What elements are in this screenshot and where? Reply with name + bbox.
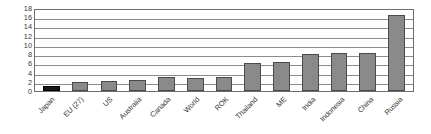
x-label-slot: China (354, 93, 383, 134)
bar-indonesia[interactable] (331, 53, 348, 91)
bar-india[interactable] (302, 54, 319, 91)
y-axis-tick-label: 8 (16, 51, 32, 59)
y-axis-tick-label: 12 (16, 33, 32, 41)
y-axis-tick-label: 0 (16, 88, 32, 96)
bar-world[interactable] (187, 78, 204, 91)
x-axis-tick-label: EU (27) (62, 95, 86, 119)
x-label-slot: EU (27) (65, 93, 94, 134)
bar-chart: Energy Consumption/GDP 181614121086420 J… (0, 0, 431, 134)
x-axis-tick-label: ME (274, 95, 288, 109)
bar-us[interactable] (101, 81, 118, 91)
x-label-slot: World (181, 93, 210, 134)
y-axis-tick-label: 10 (16, 42, 32, 50)
y-axis-tick-label: 14 (16, 23, 32, 31)
x-axis-tick-label: Russia (382, 95, 404, 117)
bar-china[interactable] (359, 53, 376, 91)
bar-eu-27[interactable] (72, 82, 89, 91)
bar-slot (37, 10, 66, 91)
bar-rok[interactable] (216, 77, 233, 91)
x-axis-tick-label: Japan (37, 95, 57, 115)
x-axis-tick-label: India (300, 95, 317, 112)
bar-thailand[interactable] (244, 63, 261, 91)
x-label-slot: ME (267, 93, 296, 134)
bar-slot (181, 10, 210, 91)
x-axis-tick-labels: JapanEU (27)USAustraliaCanadaWorldROKTha… (34, 93, 414, 134)
bar-slot (353, 10, 382, 91)
x-label-slot: Canada (152, 93, 181, 134)
y-axis-tick-label: 16 (16, 14, 32, 22)
bar-slot (325, 10, 354, 91)
x-axis-tick-label: World (182, 95, 202, 115)
bar-slot (238, 10, 267, 91)
bar-slot (123, 10, 152, 91)
y-axis-tick-label: 6 (16, 60, 32, 68)
x-label-slot: Japan (36, 93, 65, 134)
bar-slot (267, 10, 296, 91)
x-axis-tick-label: ROK (213, 95, 230, 112)
x-axis-tick-label: Canada (148, 95, 172, 119)
bar-slot (210, 10, 239, 91)
y-axis-tick-labels: 181614121086420 (16, 9, 32, 92)
plot-area (34, 9, 414, 92)
x-axis-tick-label: US (101, 95, 114, 108)
x-label-slot: Russia (383, 93, 412, 134)
x-axis-tick-label: China (355, 95, 375, 115)
y-axis-tick-label: 2 (16, 79, 32, 87)
bar-slot (66, 10, 95, 91)
x-label-slot: Australia (123, 93, 152, 134)
bar-me[interactable] (273, 62, 290, 91)
bar-canada[interactable] (158, 77, 175, 91)
bar-series (35, 10, 413, 91)
x-label-slot: Indonesia (325, 93, 354, 134)
bar-russia[interactable] (388, 15, 405, 91)
bar-australia[interactable] (129, 80, 146, 91)
x-label-slot: Thailand (238, 93, 267, 134)
bar-slot (296, 10, 325, 91)
bar-slot (152, 10, 181, 91)
y-axis-tick-label: 18 (16, 5, 32, 13)
y-axis-tick-label: 4 (16, 70, 32, 78)
bar-slot (382, 10, 411, 91)
bar-slot (95, 10, 124, 91)
bar-japan[interactable] (43, 86, 60, 91)
